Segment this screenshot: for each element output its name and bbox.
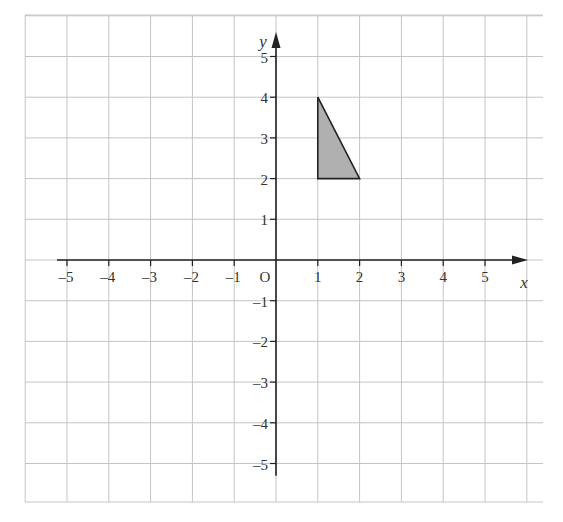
x-tick-label: –4: [99, 269, 116, 285]
x-tick-label: –3: [141, 269, 157, 285]
x-tick-label: 2: [356, 269, 364, 285]
x-tick-label: –1: [225, 269, 241, 285]
x-axis-arrow-icon: [512, 256, 528, 265]
y-tick-label: 1: [261, 212, 269, 228]
coordinate-grid: –5–4–3–2–11234554321–1–2–3–4–5Oxy: [0, 0, 563, 522]
x-tick-label: 3: [398, 269, 406, 285]
y-axis-arrow-icon: [272, 32, 281, 48]
x-tick-label: 5: [481, 269, 489, 285]
x-tick-label: –2: [183, 269, 199, 285]
tick-labels: –5–4–3–2–11234554321–1–2–3–4–5Oxy: [58, 32, 529, 473]
y-tick-label: 4: [261, 90, 269, 106]
x-tick-label: 4: [439, 269, 447, 285]
axes: [57, 32, 528, 476]
y-tick-label: 2: [261, 172, 269, 188]
x-axis-label: x: [519, 273, 528, 292]
y-tick-label: –5: [252, 457, 268, 473]
x-tick-label: 1: [314, 269, 322, 285]
y-tick-label: –4: [252, 416, 269, 432]
grid-lines: [25, 15, 543, 502]
y-tick-label: –1: [252, 294, 268, 310]
origin-label: O: [260, 269, 271, 285]
x-tick-label: –5: [58, 269, 74, 285]
y-tick-label: 5: [261, 50, 269, 66]
y-axis-label: y: [257, 32, 267, 51]
y-tick-label: 3: [261, 131, 269, 147]
y-tick-label: –3: [252, 375, 268, 391]
y-tick-label: –2: [252, 334, 268, 350]
